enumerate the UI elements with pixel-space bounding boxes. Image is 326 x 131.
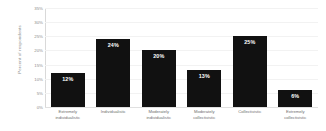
y-axis-tick-label: 35% xyxy=(25,6,43,11)
bar-slot: 12% xyxy=(45,8,91,107)
x-axis-category-label: Moderatelyindividualistic xyxy=(136,109,182,129)
bar[interactable]: 24% xyxy=(96,39,130,107)
plot-area: 12%24%20%13%25%6% xyxy=(45,8,318,107)
bar-value-label: 25% xyxy=(244,39,255,45)
axis-baseline xyxy=(45,107,318,108)
x-axis-category-label: Extremelyindividualistic xyxy=(45,109,91,129)
bar-slot: 25% xyxy=(227,8,273,107)
bar[interactable]: 13% xyxy=(187,70,221,107)
bar[interactable]: 6% xyxy=(278,90,312,107)
bar[interactable]: 12% xyxy=(51,73,85,107)
x-axis-category-label-line: individualistic xyxy=(137,115,181,121)
y-axis-tick-label: 0% xyxy=(25,105,43,110)
x-axis-category-label: Individualistic xyxy=(91,109,137,129)
bar-value-label: 24% xyxy=(108,42,119,48)
x-axis-category-label-line: collectivistic xyxy=(183,115,227,121)
x-axis-category-label-line: individualistic xyxy=(46,115,90,121)
x-axis-category-labels: ExtremelyindividualisticIndividualisticM… xyxy=(45,109,318,129)
bar-slot: 13% xyxy=(182,8,228,107)
y-axis-title: Percent of respondents xyxy=(17,7,22,93)
x-axis-category-label: Moderatelycollectivistic xyxy=(182,109,228,129)
bar-slot: 6% xyxy=(273,8,319,107)
x-axis-category-label-line: Individualistic xyxy=(92,109,136,115)
bar-value-label: 20% xyxy=(153,53,164,59)
x-axis-category-label: Extremelycollectivistic xyxy=(273,109,319,129)
bar-chart: Percent of respondents 0%5%10%15%20%25%3… xyxy=(0,0,326,131)
y-axis-tick-label: 20% xyxy=(25,48,43,53)
bar-value-label: 6% xyxy=(291,93,299,99)
y-axis-tick-label: 5% xyxy=(25,90,43,95)
y-axis-tick-label: 15% xyxy=(25,62,43,67)
y-axis-tick-label: 10% xyxy=(25,76,43,81)
bar[interactable]: 25% xyxy=(233,36,267,107)
x-axis-category-label-line: collectivistic xyxy=(274,115,318,121)
x-axis-category-label-line: Collectivistic xyxy=(228,109,272,115)
bar-slot: 24% xyxy=(91,8,137,107)
bar-value-label: 12% xyxy=(62,76,73,82)
bar[interactable]: 20% xyxy=(142,50,176,107)
x-axis-category-label: Collectivistic xyxy=(227,109,273,129)
y-axis-tick-labels: 0%5%10%15%20%25%30%35% xyxy=(25,8,43,107)
bars-group: 12%24%20%13%25%6% xyxy=(45,8,318,107)
bar-value-label: 13% xyxy=(199,73,210,79)
y-axis-tick-label: 25% xyxy=(25,34,43,39)
bar-slot: 20% xyxy=(136,8,182,107)
y-axis-tick-label: 30% xyxy=(25,20,43,25)
